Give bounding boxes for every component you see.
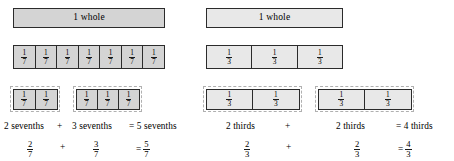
fraction-cell: 1 3 (298, 46, 342, 68)
grouped-bar: 1 3 1 3 (206, 89, 300, 110)
fraction-group-three-sevenths: 1 7 1 7 1 7 (73, 86, 142, 112)
denominator: 3 (226, 100, 232, 108)
fraction-cell: 1 3 (253, 90, 299, 109)
fraction-cell: 1 7 (14, 46, 36, 68)
fraction-one-seventh: 1 7 (126, 91, 132, 108)
grouped-bar: 1 3 1 3 (318, 89, 412, 110)
whole-label: 1 whole (207, 13, 342, 23)
denominator: 3 (405, 150, 411, 159)
symbol-operator-plus: + (286, 143, 291, 152)
fraction-group-two-thirds-second: 1 3 1 3 (315, 86, 414, 112)
equals-sign: = (136, 145, 141, 154)
whole-label: 1 whole (14, 13, 164, 23)
fraction-cell: 1 3 (252, 46, 297, 68)
symbol-term-second: 2 3 (354, 140, 360, 159)
word-operator-plus: + (285, 122, 290, 131)
denominator: 7 (105, 100, 111, 108)
whole-cell: 1 whole (14, 9, 164, 27)
denominator: 7 (129, 58, 135, 66)
word-result: = 5 sevenths (129, 122, 177, 131)
fraction-one-third: 1 3 (338, 91, 344, 108)
word-result: = 4 thirds (396, 122, 433, 131)
symbol-result: = 4 3 (398, 140, 412, 159)
fraction-one-third: 1 3 (317, 49, 323, 66)
denominator: 3 (226, 58, 232, 66)
fraction-cell: 1 3 (319, 90, 366, 109)
fraction-cell: 1 7 (36, 46, 58, 68)
symbol-term-second: 3 7 (93, 140, 99, 159)
word-term-first: 2 sevenths (4, 122, 44, 131)
grouped-bar: 1 7 1 7 1 7 (76, 89, 140, 110)
partitioned-bar-sevenths: 1 7 1 7 1 7 1 7 1 7 (13, 45, 165, 69)
denominator: 7 (86, 58, 92, 66)
denominator: 7 (43, 100, 49, 108)
symbol-result: = 5 7 (136, 140, 150, 159)
word-term-second: 3 sevenths (72, 122, 112, 131)
fraction-one-third: 1 3 (226, 91, 232, 108)
fraction-one-third: 1 3 (385, 91, 391, 108)
word-term-first: 2 thirds (226, 122, 255, 131)
denominator: 7 (93, 150, 99, 159)
fraction-four-thirds: 4 3 (405, 140, 411, 159)
fraction-cell: 1 3 (365, 90, 411, 109)
fraction-one-third: 1 3 (272, 49, 278, 66)
denominator: 3 (317, 58, 323, 66)
fraction-one-seventh: 1 7 (43, 91, 49, 108)
denominator: 3 (273, 100, 279, 108)
denominator: 7 (27, 150, 33, 159)
fraction-group-two-sevenths: 1 7 1 7 (10, 86, 60, 112)
fraction-cell: 1 7 (119, 90, 139, 109)
word-term-second: 2 thirds (336, 122, 365, 131)
denominator: 3 (244, 150, 250, 159)
symbol-term-first: 2 3 (244, 140, 250, 159)
fraction-cell: 1 7 (98, 90, 119, 109)
fraction-one-seventh: 1 7 (43, 49, 49, 66)
denominator: 7 (143, 150, 149, 159)
fraction-one-third: 1 3 (226, 49, 232, 66)
fraction-one-seventh: 1 7 (129, 49, 135, 66)
word-operator-plus: + (57, 122, 62, 131)
symbol-operator-plus: + (60, 143, 65, 152)
denominator: 3 (354, 150, 360, 159)
denominator: 3 (338, 100, 344, 108)
denominator: 7 (21, 58, 27, 66)
whole-bar-thirds: 1 whole (206, 8, 343, 28)
fraction-one-seventh: 1 7 (21, 49, 27, 66)
fraction-cell: 1 7 (122, 46, 144, 68)
fraction-cell: 1 7 (77, 90, 98, 109)
partitioned-bar-thirds: 1 3 1 3 1 3 (206, 45, 343, 69)
fraction-two-sevenths: 2 7 (27, 140, 33, 159)
fraction-panel-thirds: 1 whole 1 3 1 3 1 3 1 (200, 0, 454, 161)
fraction-panel-sevenths: 1 whole 1 7 1 7 1 7 1 7 (0, 0, 200, 161)
equals-sign: = (398, 145, 403, 154)
symbol-term-first: 2 7 (27, 140, 33, 159)
fraction-cell: 1 7 (100, 46, 122, 68)
fraction-one-seventh: 1 7 (65, 49, 71, 66)
fraction-cell: 1 7 (143, 46, 164, 68)
denominator: 7 (43, 58, 49, 66)
fraction-five-sevenths: 5 7 (143, 140, 149, 159)
fraction-one-seventh: 1 7 (21, 91, 27, 108)
fraction-cell: 1 7 (14, 90, 36, 109)
fraction-group-two-thirds-first: 1 3 1 3 (203, 86, 302, 112)
denominator: 7 (65, 58, 71, 66)
denominator: 7 (151, 58, 157, 66)
fraction-cell: 1 3 (207, 90, 254, 109)
fraction-three-sevenths: 3 7 (93, 140, 99, 159)
grouped-bar: 1 7 1 7 (13, 89, 58, 110)
fraction-cell: 1 3 (207, 46, 252, 68)
denominator: 7 (84, 100, 90, 108)
fraction-two-thirds: 2 3 (354, 140, 360, 159)
whole-bar-sevenths: 1 whole (13, 8, 165, 28)
fraction-two-thirds: 2 3 (244, 140, 250, 159)
fraction-one-seventh: 1 7 (151, 49, 157, 66)
denominator: 7 (21, 100, 27, 108)
fraction-cell: 1 7 (36, 90, 57, 109)
fraction-one-seventh: 1 7 (86, 49, 92, 66)
fraction-cell: 1 7 (79, 46, 101, 68)
denominator: 7 (108, 58, 114, 66)
denominator: 3 (272, 58, 278, 66)
fraction-one-seventh: 1 7 (108, 49, 114, 66)
whole-cell: 1 whole (207, 9, 342, 27)
fraction-cell: 1 7 (57, 46, 79, 68)
